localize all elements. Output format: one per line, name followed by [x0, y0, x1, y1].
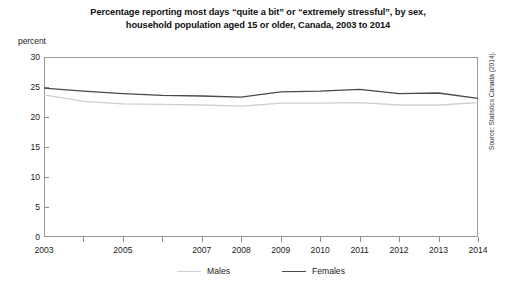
legend-swatch-females-icon — [282, 271, 306, 272]
x-tick-mark-2012 — [399, 237, 400, 242]
y-tick-label-0: 0 — [14, 232, 40, 242]
x-tick-mark-2004 — [83, 237, 84, 242]
legend-label-females: Females — [312, 266, 345, 276]
x-tick-mark-2010 — [320, 237, 321, 242]
x-tick-label-2011: 2011 — [350, 245, 368, 255]
series-line-females — [44, 88, 478, 98]
legend-swatch-males-icon — [177, 271, 201, 272]
x-tick-mark-2007 — [202, 237, 203, 242]
x-tick-label-2003: 2003 — [34, 245, 53, 255]
x-tick-mark-2011 — [360, 237, 361, 242]
series-plot — [44, 57, 478, 237]
x-tick-label-2005: 2005 — [113, 245, 132, 255]
x-tick-label-2012: 2012 — [390, 245, 409, 255]
x-tick-mark-2013 — [439, 237, 440, 242]
chart-legend: Males Females — [44, 266, 478, 276]
chart-title: Percentage reporting most days “quite a … — [36, 6, 480, 31]
y-tick-label-10: 10 — [14, 172, 40, 182]
x-tick-label-2008: 2008 — [232, 245, 251, 255]
chart-title-line-2: household population aged 15 or older, C… — [36, 19, 480, 32]
legend-item-females: Females — [282, 266, 345, 276]
x-tick-label-2014: 2014 — [468, 245, 487, 255]
y-tick-label-5: 5 — [14, 202, 40, 212]
x-tick-mark-2005 — [123, 237, 124, 242]
chart-figure: Percentage reporting most days “quite a … — [0, 0, 515, 296]
x-tick-mark-2014 — [478, 237, 479, 242]
y-tick-label-25: 25 — [14, 82, 40, 92]
y-tick-label-15: 15 — [14, 142, 40, 152]
x-tick-mark-2009 — [281, 237, 282, 242]
x-tick-mark-2008 — [241, 237, 242, 242]
x-tick-label-2007: 2007 — [192, 245, 211, 255]
x-tick-mark-2006 — [162, 237, 163, 242]
x-tick-label-2009: 2009 — [271, 245, 290, 255]
y-tick-label-20: 20 — [14, 112, 40, 122]
x-tick-label-2010: 2010 — [311, 245, 330, 255]
chart-title-line-1: Percentage reporting most days “quite a … — [36, 6, 480, 19]
source-note: Source: Statistics Canada (2014). — [488, 51, 495, 150]
legend-label-males: Males — [207, 266, 230, 276]
legend-item-males: Males — [177, 266, 230, 276]
y-tick-label-30: 30 — [14, 52, 40, 62]
x-tick-label-2013: 2013 — [429, 245, 448, 255]
series-line-males — [44, 95, 478, 106]
